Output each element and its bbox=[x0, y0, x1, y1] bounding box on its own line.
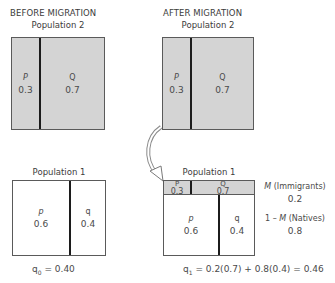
natives-value: 0.8 bbox=[257, 225, 333, 238]
one-minus-text: 1 – bbox=[265, 214, 279, 223]
after-pop1-native-q-cell: q 0.4 bbox=[220, 195, 254, 255]
allele-frequency: 0.6 bbox=[184, 225, 198, 237]
allele-frequency: 0.6 bbox=[34, 218, 48, 230]
allele-symbol: p bbox=[38, 206, 43, 218]
formula-rhs: = 0.2(0.7) + 0.8(0.4) = 0.46 bbox=[193, 264, 324, 274]
allele-symbol: Q bbox=[219, 72, 225, 84]
allele-frequency: 0.4 bbox=[230, 225, 244, 237]
allele-symbol: q bbox=[85, 206, 90, 218]
natives-text: (Natives) bbox=[286, 214, 325, 223]
after-pop2-P-cell: P 0.3 bbox=[163, 38, 190, 129]
before-pop2-Q-cell: Q 0.7 bbox=[41, 38, 104, 129]
allele-symbol: Q bbox=[69, 72, 75, 84]
allele-symbol: q bbox=[234, 213, 239, 225]
allele-frequency: 0.3 bbox=[169, 84, 183, 96]
before-population-1-box: p 0.6 q 0.4 bbox=[12, 180, 106, 256]
after-population-2-label: Population 2 bbox=[162, 20, 254, 30]
allele-symbol: P bbox=[174, 72, 179, 84]
before-population-2-box: P 0.3 Q 0.7 bbox=[11, 37, 105, 130]
allele-frequency: 0.7 bbox=[65, 84, 79, 96]
after-pop1-native-p-cell: p 0.6 bbox=[164, 195, 218, 255]
after-pop1-immigrant-P-cell: P 0.3 bbox=[164, 181, 190, 194]
before-pop2-P-cell: P 0.3 bbox=[12, 38, 39, 129]
formula-rhs: = 0.40 bbox=[42, 264, 75, 274]
allele-symbol: P bbox=[23, 72, 28, 84]
native-portion: p 0.6 q 0.4 bbox=[164, 195, 254, 255]
before-migration-heading: BEFORE MIGRATION bbox=[10, 8, 96, 18]
after-pop1-immigrant-Q-cell: Q 0.7 bbox=[192, 181, 254, 194]
after-population-1-box: P 0.3 Q 0.7 p 0.6 q 0.4 bbox=[163, 180, 255, 256]
immigrants-value: 0.2 bbox=[257, 193, 333, 206]
allele-frequency: 0.3 bbox=[18, 84, 32, 96]
allele-symbol: p bbox=[188, 213, 193, 225]
before-pop1-p-cell: p 0.6 bbox=[13, 181, 69, 255]
after-q1-formula: q1 = 0.2(0.7) + 0.8(0.4) = 0.46 bbox=[183, 264, 324, 276]
immigrants-label: M (Immigrants) 0.2 bbox=[257, 180, 333, 206]
before-population-2-label: Population 2 bbox=[11, 20, 105, 30]
before-population-1-label: Population 1 bbox=[12, 167, 106, 177]
immigrant-strip: P 0.3 Q 0.7 bbox=[164, 181, 254, 195]
before-pop1-q-cell: q 0.4 bbox=[71, 181, 105, 255]
allele-frequency: 0.7 bbox=[215, 84, 229, 96]
after-population-2-box: P 0.3 Q 0.7 bbox=[162, 37, 254, 130]
after-migration-heading: AFTER MIGRATION bbox=[163, 8, 242, 18]
after-pop2-Q-cell: Q 0.7 bbox=[192, 38, 253, 129]
immigrants-text: (Immigrants) bbox=[271, 182, 326, 191]
before-q0-formula: q0 = 0.40 bbox=[32, 264, 75, 276]
natives-label: 1 – M (Natives) 0.8 bbox=[257, 212, 333, 238]
after-population-1-label: Population 1 bbox=[163, 167, 255, 177]
allele-frequency: 0.4 bbox=[81, 218, 95, 230]
